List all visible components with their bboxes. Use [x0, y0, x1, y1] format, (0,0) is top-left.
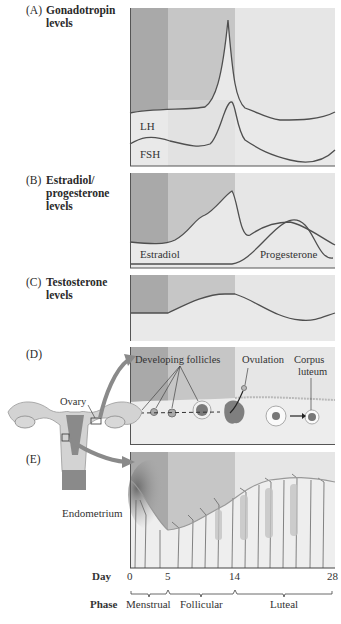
day-label: Day [92, 570, 111, 582]
tick-5: 5 [165, 570, 171, 582]
uterus-illustration: Ovary [8, 354, 142, 490]
phase-menstrual: Menstrual [126, 598, 171, 610]
tick-0: 0 [127, 570, 133, 582]
panel-a-chart: LH FSH [130, 8, 335, 166]
corpus-label: Corpus [294, 354, 324, 365]
phase-braces [131, 590, 332, 597]
day-axis: Day 0 5 14 28 Phase Menstrual Follicular… [90, 570, 339, 610]
panel-b-chart: Estradiol Progesterone [130, 173, 335, 268]
fsh-label: FSH [140, 148, 160, 160]
estradiol-label: Estradiol [140, 248, 180, 260]
developing-follicles-label: Developing follicles [135, 354, 220, 365]
panel-c-chart [130, 275, 335, 341]
phase-luteal: Luteal [270, 598, 298, 610]
phase-follicular: Follicular [180, 598, 223, 610]
ovary-label: Ovary [60, 396, 87, 407]
lh-label: LH [140, 120, 155, 132]
menstrual-cycle-figure: LH FSH Estradiol Progesterone [0, 0, 341, 624]
luteum-label: luteum [298, 366, 327, 377]
panel-d-ovary: Developing follicles Ovulation Corpus lu… [130, 347, 335, 445]
tick-14: 14 [229, 570, 241, 582]
tick-28: 28 [327, 570, 339, 582]
endometrium-label: Endometrium [62, 507, 123, 519]
phase-label: Phase [90, 598, 118, 610]
progesterone-label: Progesterone [260, 248, 318, 260]
ovulation-label: Ovulation [242, 354, 285, 365]
panel-e-endometrium: Endometrium [62, 452, 335, 568]
